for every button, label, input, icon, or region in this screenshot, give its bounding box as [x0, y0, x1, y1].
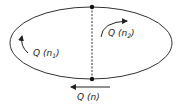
label-bottom: Q (n)	[77, 92, 100, 102]
label-left-region: Q (n1)	[33, 48, 60, 59]
top-node	[90, 5, 94, 9]
label-right-region: Q (n2)	[108, 28, 135, 39]
outer-ellipse	[10, 7, 172, 79]
region-diagram: Q (n1) Q (n2) Q (n)	[0, 0, 181, 104]
left-curved-arrow-icon	[22, 36, 28, 53]
bottom-node	[90, 77, 94, 81]
